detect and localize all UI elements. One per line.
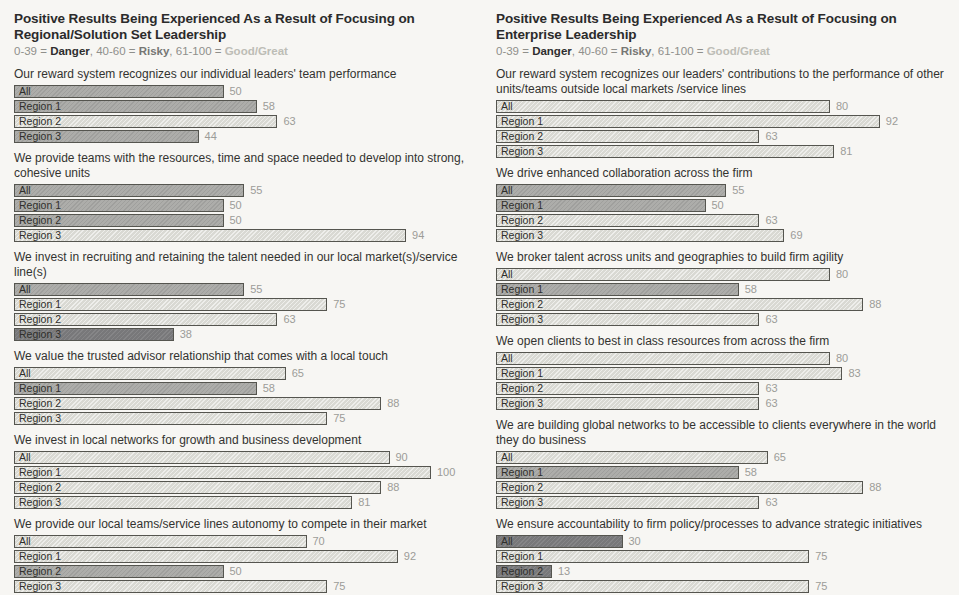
question-label: We broker talent across units and geogra… <box>496 250 948 265</box>
question-label: We ensure accountability to firm policy/… <box>496 517 948 532</box>
bar-value-label: 90 <box>396 451 408 463</box>
bar-category-label: Region 3 <box>497 398 543 409</box>
bar-region-2: Region 2 <box>14 565 224 578</box>
bar-region-2: Region 2 <box>14 214 224 227</box>
bar-row: Region 288 <box>496 298 948 311</box>
bar-category-label: Region 2 <box>497 383 543 394</box>
bar-region-3: Region 3 <box>496 496 759 509</box>
bar-category-label: Region 3 <box>15 581 61 592</box>
bar-region-2: Region 2 <box>14 481 381 494</box>
question-label: We provide teams with the resources, tim… <box>14 151 466 181</box>
bar-row: Region 213 <box>496 565 948 578</box>
bar-value-label: 75 <box>333 412 345 424</box>
bar-region-3: Region 3 <box>496 397 759 410</box>
bar-value-label: 80 <box>836 100 848 112</box>
bar-row: Region 158 <box>14 100 466 113</box>
bar-value-label: 75 <box>333 580 345 592</box>
bar-category-label: All <box>497 452 513 463</box>
legend-segment-risky: Risky <box>621 45 652 57</box>
bar-region-1: Region 1 <box>14 298 327 311</box>
bar-row: All55 <box>496 184 948 197</box>
legend-segment-risky: Risky <box>139 45 170 57</box>
bar-region-1: Region 1 <box>496 115 880 128</box>
bar-value-label: 50 <box>230 214 242 226</box>
bar-region-1: Region 1 <box>496 283 739 296</box>
bar-value-label: 50 <box>230 565 242 577</box>
bar-groups: Our reward system recognizes our individ… <box>14 67 466 593</box>
question-label: We value the trusted advisor relationshi… <box>14 349 466 364</box>
bar-all: All <box>496 535 623 548</box>
bar-category-label: Region 1 <box>497 200 543 211</box>
bar-value-label: 63 <box>283 313 295 325</box>
bar-row: All70 <box>14 535 466 548</box>
bar-value-label: 75 <box>815 580 827 592</box>
bar-groups: Our reward system recognizes our leaders… <box>496 67 948 593</box>
bar-category-label: Region 3 <box>15 131 61 142</box>
bar-category-label: All <box>497 269 513 280</box>
bar-value-label: 50 <box>230 199 242 211</box>
bar-value-label: 63 <box>765 313 777 325</box>
bar-row: Region 250 <box>14 214 466 227</box>
bar-region-3: Region 3 <box>14 130 199 143</box>
bar-value-label: 63 <box>765 382 777 394</box>
bar-category-label: All <box>497 101 513 112</box>
bar-category-label: Region 2 <box>15 482 61 493</box>
legend-segment-plain: 0-39 = <box>496 45 532 57</box>
panel-title: Positive Results Being Experienced As a … <box>14 11 466 43</box>
bar-all: All <box>496 352 830 365</box>
bar-region-1: Region 1 <box>496 367 842 380</box>
question-group: We open clients to best in class resourc… <box>496 334 948 410</box>
question-group: We invest in local networks for growth a… <box>14 433 466 509</box>
question-label: Our reward system recognizes our leaders… <box>496 67 948 97</box>
bar-row: All65 <box>496 451 948 464</box>
question-group: Our reward system recognizes our individ… <box>14 67 466 143</box>
bar-row: All80 <box>496 352 948 365</box>
bar-row: Region 158 <box>14 382 466 395</box>
question-group: Our reward system recognizes our leaders… <box>496 67 948 158</box>
bar-row: Region 381 <box>14 496 466 509</box>
bar-value-label: 13 <box>558 565 570 577</box>
bar-category-label: All <box>497 536 513 547</box>
bar-category-label: All <box>15 86 31 97</box>
legend-segment-danger: Danger <box>532 45 572 57</box>
bar-value-label: 63 <box>765 130 777 142</box>
question-group: We broker talent across units and geogra… <box>496 250 948 326</box>
bar-row: Region 375 <box>14 580 466 593</box>
score-legend: 0-39 = Danger, 40-60 = Risky, 61-100 = G… <box>496 45 948 59</box>
bar-row: All55 <box>14 184 466 197</box>
bar-category-label: Region 3 <box>15 413 61 424</box>
bar-category-label: All <box>15 185 31 196</box>
bar-all: All <box>496 100 830 113</box>
bar-category-label: Region 2 <box>497 566 543 577</box>
bar-region-2: Region 2 <box>14 313 277 326</box>
question-group: We invest in recruiting and retaining th… <box>14 250 466 341</box>
bar-value-label: 65 <box>292 367 304 379</box>
bar-value-label: 38 <box>180 328 192 340</box>
bar-value-label: 55 <box>250 184 262 196</box>
bar-value-label: 63 <box>283 115 295 127</box>
bar-region-1: Region 1 <box>14 199 224 212</box>
bar-category-label: Region 2 <box>497 299 543 310</box>
question-group: We are building global networks to be ac… <box>496 418 948 509</box>
bar-category-label: Region 1 <box>15 101 61 112</box>
legend-segment-plain: , 40-60 = <box>572 45 621 57</box>
bar-category-label: All <box>15 536 31 547</box>
bar-region-1: Region 1 <box>14 100 257 113</box>
question-group: We ensure accountability to firm policy/… <box>496 517 948 593</box>
bar-row: Region 375 <box>496 580 948 593</box>
bar-row: Region 250 <box>14 565 466 578</box>
bar-value-label: 65 <box>774 451 786 463</box>
bar-all: All <box>496 451 768 464</box>
bar-category-label: Region 2 <box>15 566 61 577</box>
bar-region-3: Region 3 <box>496 145 834 158</box>
bar-category-label: Region 1 <box>15 467 61 478</box>
bar-region-1: Region 1 <box>14 382 257 395</box>
bar-all: All <box>496 268 830 281</box>
bar-region-1: Region 1 <box>496 550 809 563</box>
bar-value-label: 92 <box>404 550 416 562</box>
bar-row: Region 263 <box>496 382 948 395</box>
bar-value-label: 75 <box>333 298 345 310</box>
question-group: We provide teams with the resources, tim… <box>14 151 466 242</box>
bar-row: Region 263 <box>14 115 466 128</box>
report-page: Positive Results Being Experienced As a … <box>0 0 959 595</box>
